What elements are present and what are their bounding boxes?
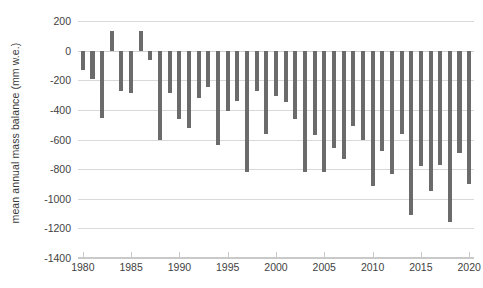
bars-layer xyxy=(78,21,474,258)
bar xyxy=(438,51,442,165)
x-axis-line xyxy=(78,257,474,258)
bar xyxy=(293,51,297,119)
bar xyxy=(129,51,133,93)
x-tick-label: 1985 xyxy=(119,261,142,273)
bar xyxy=(322,51,326,172)
y-tick-label: -800 xyxy=(50,163,71,175)
x-tick-mark xyxy=(131,252,132,257)
x-tick-mark xyxy=(228,252,229,257)
x-tick-label: 1980 xyxy=(71,261,94,273)
bar xyxy=(419,51,423,167)
x-tick-label: 2000 xyxy=(264,261,287,273)
x-tick-label: 2020 xyxy=(457,261,480,273)
y-tick-label: 0 xyxy=(65,45,71,57)
plot-area: 2000-200-400-600-800-1000-1200-1400 xyxy=(78,21,474,258)
y-tick-label: -1200 xyxy=(44,222,71,234)
x-tick-label: 1995 xyxy=(216,261,239,273)
bar xyxy=(429,51,433,192)
bar xyxy=(457,51,461,153)
x-tick-mark xyxy=(324,252,325,257)
y-tick-label: -400 xyxy=(50,104,71,116)
x-tick-mark xyxy=(469,252,470,257)
bar xyxy=(313,51,317,135)
y-tick-label: -200 xyxy=(50,74,71,86)
x-tick-mark xyxy=(421,252,422,257)
x-tick-label: 2005 xyxy=(313,261,336,273)
bar xyxy=(390,51,394,174)
bar xyxy=(303,51,307,172)
x-tick-label: 1990 xyxy=(168,261,191,273)
bar xyxy=(284,51,288,103)
bar xyxy=(255,51,259,91)
bar xyxy=(187,51,191,128)
y-tick-label: 200 xyxy=(53,15,71,27)
bar xyxy=(235,51,239,101)
bar xyxy=(274,51,278,96)
bar xyxy=(342,51,346,159)
x-tick-mark xyxy=(276,252,277,257)
y-tick-label: -1000 xyxy=(44,193,71,205)
mass-balance-bar-chart: mean annual mass balance (mm w.e.) 2000-… xyxy=(0,0,483,288)
bar xyxy=(448,51,452,223)
y-axis-title: mean annual mass balance (mm w.e.) xyxy=(9,8,27,258)
bar xyxy=(139,31,143,50)
bar xyxy=(90,51,94,79)
x-tick-mark xyxy=(179,252,180,257)
bar xyxy=(119,51,123,92)
bar xyxy=(409,51,413,215)
bar xyxy=(400,51,404,134)
y-tick-label: -1400 xyxy=(44,252,71,264)
bar xyxy=(351,51,355,127)
bar xyxy=(177,51,181,119)
bar xyxy=(216,51,220,146)
bar xyxy=(467,51,471,184)
x-tick-mark xyxy=(83,252,84,257)
bar xyxy=(226,51,230,112)
gridline xyxy=(78,258,474,259)
bar xyxy=(332,51,336,149)
bar xyxy=(371,51,375,187)
x-tick-label: 2010 xyxy=(361,261,384,273)
bar xyxy=(245,51,249,172)
x-tick-mark xyxy=(373,252,374,257)
bar xyxy=(81,51,85,70)
bar xyxy=(110,31,114,50)
bar xyxy=(264,51,268,134)
bar xyxy=(361,51,365,140)
bar xyxy=(158,51,162,140)
bar xyxy=(206,51,210,87)
bar xyxy=(168,51,172,93)
bar xyxy=(380,51,384,152)
bar xyxy=(197,51,201,98)
bar xyxy=(148,51,152,60)
y-tick-label: -600 xyxy=(50,134,71,146)
x-tick-label: 2015 xyxy=(409,261,432,273)
bar xyxy=(100,51,104,118)
